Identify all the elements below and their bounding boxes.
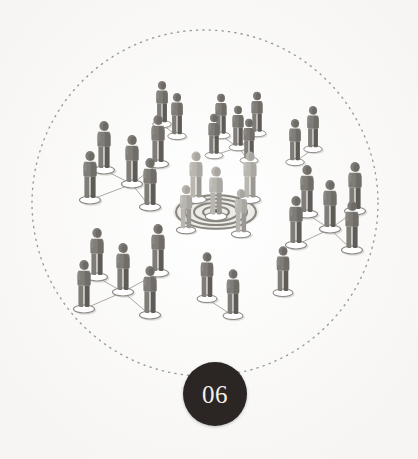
figure-head-shade [312, 107, 317, 114]
figure-torso-shade [217, 178, 223, 193]
figure-torso-highlight [190, 162, 193, 171]
figure-torso-shade [297, 207, 303, 222]
figure-base-ring [140, 203, 161, 211]
figure-base-ring [176, 226, 195, 233]
figure-leg-right [217, 193, 222, 215]
figure-torso-shade [251, 162, 257, 177]
figure-leg-left [84, 177, 89, 198]
figure-leg-right [234, 294, 239, 314]
figure-leg-left [181, 209, 186, 229]
figure-leg-right [353, 227, 358, 248]
figure-torso-highlight [77, 271, 80, 280]
figure-torso-shade [133, 146, 139, 161]
figure-torso-highlight [151, 235, 154, 244]
figure-leg-left [236, 213, 241, 233]
figure-leg-right [187, 209, 192, 229]
figure-leg-left [152, 141, 157, 162]
figure-leg-left [290, 142, 294, 161]
badge-number-label: 06 [202, 382, 228, 407]
figure-torso-highlight [215, 103, 218, 111]
figure-torso-highlight [156, 91, 159, 99]
figure-base-ring [286, 159, 304, 166]
figure-torso-highlight [227, 280, 230, 289]
figure-torso-highlight [97, 132, 100, 141]
figure-head-shade [195, 153, 201, 161]
figure-leg-left [172, 116, 176, 135]
figure-torso-highlight [171, 103, 174, 111]
figure-torso-shade [178, 103, 183, 116]
figure-leg-left [126, 161, 131, 182]
figure-torso-shade [242, 199, 247, 213]
section-number-badge[interactable]: 06 [183, 362, 247, 426]
figure-torso-shade [163, 91, 168, 104]
figure-base-ring [94, 166, 115, 174]
badge-circle: 06 [183, 362, 247, 426]
figure-base-ring [342, 246, 363, 254]
figure-base-ring [320, 225, 341, 233]
figure-leg-left [278, 271, 283, 291]
figure-torso-highlight [289, 129, 292, 137]
figure-head-shade [249, 153, 255, 161]
figure-head-shade [176, 94, 181, 101]
figure-leg-right [151, 184, 156, 205]
figure-torso-shade [197, 162, 203, 177]
figure-leg-right [242, 213, 247, 233]
figure-head-shade [89, 152, 95, 160]
figure-leg-left [346, 227, 351, 248]
figure-torso-shade [296, 129, 301, 142]
figure-head-shade [206, 254, 212, 262]
figure-leg-right [85, 286, 90, 307]
figure-torso-shade [124, 254, 130, 269]
figure-torso-highlight [232, 115, 235, 123]
figure-leg-right [308, 191, 313, 212]
figure-head-shade [185, 186, 191, 194]
figure-head-shade [329, 181, 335, 189]
figure-leg-right [159, 250, 164, 271]
figure-torso-highlight [83, 162, 86, 171]
figure-head-shade [83, 261, 89, 269]
figure-leg-right [98, 254, 103, 275]
figure-head-shade [215, 168, 221, 177]
figure-head-shade [220, 95, 225, 102]
figure-base-ring [140, 311, 161, 319]
figure-torso-shade [284, 257, 290, 271]
figure-torso-shade [159, 126, 165, 141]
figure-leg-left [308, 129, 312, 148]
figure-head-shade [96, 229, 102, 237]
figure-head-shade [306, 166, 312, 174]
figure-base-ring [122, 180, 143, 188]
figure-leg-left [144, 292, 149, 313]
figure-leg-left [209, 136, 213, 154]
figure-leg-right [91, 177, 96, 198]
figure-leg-right [105, 147, 110, 168]
figure-torso-shade [353, 212, 359, 227]
figure-leg-right [151, 292, 156, 313]
figure-torso-shade [331, 191, 337, 206]
figure-torso-shade [308, 176, 314, 191]
figure-torso-highlight [323, 191, 326, 200]
figure-head-shade [157, 225, 163, 233]
figure-torso-shade [187, 195, 192, 209]
figure-torso-shade [91, 162, 97, 177]
figure-leg-right [124, 269, 129, 290]
figure-head-shade [213, 115, 218, 122]
figure-head-shade [232, 271, 238, 279]
figure-leg-right [133, 161, 138, 182]
illustration-canvas: Network clusters around central target 0… [0, 0, 418, 459]
figure-torso-shade [222, 103, 227, 116]
figure-leg-right [239, 128, 243, 146]
figure-leg-right [178, 116, 182, 135]
figure-head-shade [131, 136, 137, 144]
figure-torso-shade [159, 235, 165, 250]
figure-base-ring [197, 295, 217, 303]
figure-leg-right [163, 104, 167, 123]
figure-leg-left [202, 277, 207, 297]
figure-head-shade [237, 107, 242, 114]
figure-torso-highlight [151, 126, 154, 135]
figure-base-ring [286, 241, 307, 249]
figure-torso-highlight [251, 101, 254, 109]
figure-leg-left [228, 294, 233, 314]
figure-leg-right [251, 177, 256, 198]
figure-leg-right [208, 277, 213, 297]
figure-torso-shade [258, 101, 263, 114]
